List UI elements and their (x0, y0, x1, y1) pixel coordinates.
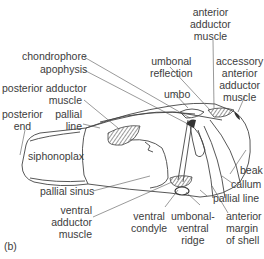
label-accessory-anterior-adductor-muscle: accessory anterior adductor muscle (216, 55, 263, 103)
label-line: muscle (190, 30, 231, 42)
label-line: condyle (131, 222, 167, 234)
label-line: end (2, 120, 43, 132)
ventral-adductor-muscle-scar (170, 176, 192, 187)
label-line: ridge (171, 234, 215, 246)
label-line: line (52, 120, 82, 132)
label-anterior-adductor-muscle: anterior adductor muscle (190, 6, 231, 42)
umbonal-ventral-ridge-line (178, 120, 192, 182)
label-posterior-adductor-muscle: posterior adductor muscle (2, 82, 82, 106)
label-line: muscle (50, 228, 92, 240)
label-umbo: umbo (164, 88, 190, 100)
label-line: anterior (226, 210, 262, 222)
label-line: adductor (50, 216, 92, 228)
label-line: umbonal (150, 55, 193, 67)
label-line: ventral (171, 222, 215, 234)
label-line: anterior (216, 67, 263, 79)
label-line: ventral (131, 210, 167, 222)
label-line: reflection (150, 67, 193, 79)
label-ventral-adductor-muscle: ventral adductor muscle (50, 204, 92, 240)
posterior-adductor-muscle-scar (108, 126, 140, 146)
label-line: muscle (2, 94, 82, 106)
label-pallial-line-left: pallial line (52, 108, 82, 132)
panel-label: (b) (4, 240, 17, 252)
label-anterior-margin-of-shell: anterior margin of shell (226, 210, 262, 246)
label-line: accessory (216, 55, 263, 67)
label-line: pallial (52, 108, 82, 120)
label-line: muscle (216, 91, 263, 103)
label-line: posterior (2, 108, 43, 120)
label-chondrophore: chondrophore (22, 50, 87, 62)
label-beak: beak (240, 164, 263, 176)
label-umbonal-ventral-ridge: umbonal- ventral ridge (171, 210, 215, 246)
pallial-sinus (130, 140, 168, 188)
label-line: adductor (190, 18, 231, 30)
shell-body (86, 103, 250, 197)
label-line: umbonal- (171, 210, 215, 222)
label-pallial-line-right: pallial line (213, 192, 259, 204)
label-apophysis: apophysis (40, 63, 87, 75)
label-line: posterior adductor (2, 82, 82, 94)
label-line: of shell (226, 234, 262, 246)
label-umbonal-reflection: umbonal reflection (150, 55, 193, 79)
label-posterior-end: posterior end (2, 108, 43, 132)
label-line: anterior (190, 6, 231, 18)
label-siphonoplax: siphonoplax (28, 150, 84, 162)
anterior-adductor-muscle-scar (208, 108, 234, 117)
label-line: ventral (50, 204, 92, 216)
label-line: margin (226, 222, 262, 234)
label-callum: callum (231, 178, 261, 190)
label-line: adductor (216, 79, 263, 91)
label-ventral-condyle: ventral condyle (131, 210, 167, 234)
label-pallial-sinus: pallial sinus (40, 185, 94, 197)
